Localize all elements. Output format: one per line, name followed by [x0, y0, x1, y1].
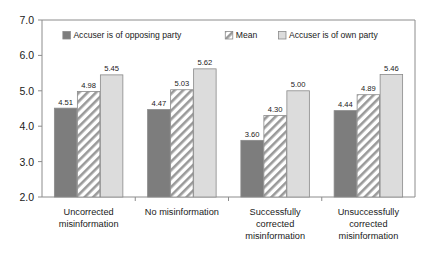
- category-label: No misinformation: [145, 207, 219, 217]
- bar-value-label: 5.45: [104, 64, 119, 73]
- y-tick-label: 4.0: [19, 120, 34, 132]
- bar-value-label: 5.03: [174, 79, 189, 88]
- category-label: misinformation: [245, 231, 305, 241]
- bar-chart: 2.03.04.05.06.07.0 4.514.985.454.475.035…: [0, 0, 429, 258]
- bar-4-3: [380, 75, 403, 197]
- bar-3-3: [287, 91, 310, 197]
- category-label: corrected: [349, 219, 387, 229]
- bar-value-label: 5.46: [384, 64, 399, 73]
- category-label: Successfully: [250, 207, 301, 217]
- category-label: Uncorrected: [64, 207, 114, 217]
- bar-1-3: [100, 75, 123, 197]
- bar-value-label: 4.51: [58, 98, 73, 107]
- bar-4-1: [334, 111, 357, 197]
- bar-value-label: 4.47: [151, 99, 166, 108]
- bar-1-1: [54, 108, 77, 197]
- category-label: misinformation: [59, 219, 119, 229]
- y-tick-label: 6.0: [19, 49, 34, 61]
- legend-label-1: Accuser is of opposing party: [73, 30, 182, 40]
- y-tick-label: 3.0: [19, 156, 34, 168]
- category-label: Unsuccessfully: [338, 207, 400, 217]
- bar-value-label: 4.30: [268, 105, 283, 114]
- bar-3-2: [264, 116, 287, 197]
- legend-swatch-3: [278, 32, 286, 40]
- legend-label-3: Accuser is of own party: [289, 30, 379, 40]
- bar-1-2: [77, 92, 100, 197]
- bar-2-1: [148, 110, 171, 197]
- bar-2-2: [171, 90, 194, 197]
- legend-swatch-2: [225, 32, 233, 40]
- y-tick-label: 2.0: [19, 191, 34, 203]
- bar-value-label: 5.62: [197, 58, 212, 67]
- bar-value-label: 5.00: [291, 80, 306, 89]
- y-tick-label: 5.0: [19, 85, 34, 97]
- bar-2-3: [194, 69, 217, 197]
- bar-value-label: 4.98: [81, 81, 96, 90]
- y-tick-label: 7.0: [19, 14, 34, 26]
- legend-label-2: Mean: [236, 30, 258, 40]
- category-label: corrected: [256, 219, 294, 229]
- bar-value-label: 4.89: [361, 84, 376, 93]
- bar-4-2: [357, 95, 380, 197]
- legend-swatch-1: [63, 32, 71, 40]
- bar-value-label: 4.44: [338, 100, 353, 109]
- category-label: misinformation: [339, 231, 399, 241]
- bar-3-1: [241, 140, 264, 197]
- bar-value-label: 3.60: [245, 130, 260, 139]
